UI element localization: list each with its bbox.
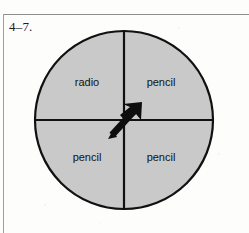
sector-label-top-right: pencil xyxy=(147,76,176,88)
exercise-figure-page: 4–7. radio pencil pencil pencil xyxy=(0,0,249,233)
sector-label-top-left: radio xyxy=(75,76,99,88)
sector-label-bottom-right: pencil xyxy=(147,151,176,163)
sector-label-bottom-left: pencil xyxy=(73,151,102,163)
spinner-diagram: radio pencil pencil pencil xyxy=(0,0,249,233)
